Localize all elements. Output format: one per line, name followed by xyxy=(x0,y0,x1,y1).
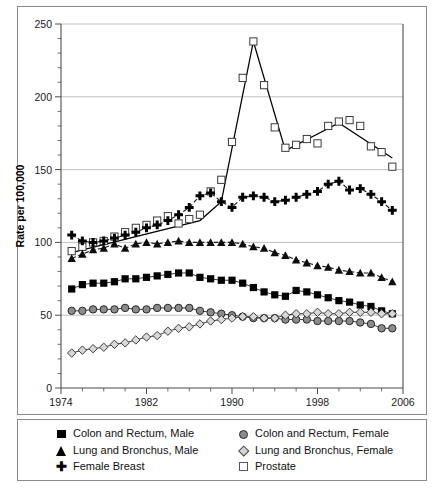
datapoint-lung-and-bronchus-female-1984 xyxy=(164,327,172,335)
datapoint-colon-and-rectum-male-1980 xyxy=(122,275,129,282)
x-tick-label-1990: 1990 xyxy=(220,396,244,408)
datapoint-prostate-1985 xyxy=(175,220,182,227)
legend-item-label: Lung and Bronchus, Female xyxy=(255,444,393,457)
datapoint-prostate-1995 xyxy=(282,144,289,151)
datapoint-colon-and-rectum-male-1993 xyxy=(260,288,267,295)
datapoint-lung-and-bronchus-female-1982 xyxy=(142,333,150,341)
datapoint-lung-and-bronchus-female-2000 xyxy=(335,310,343,318)
datapoint-female-breast-1987 xyxy=(196,191,205,200)
chart-svg: 05010015020025019741982199019982006Year … xyxy=(0,0,441,413)
datapoint-colon-and-rectum-male-1977 xyxy=(89,280,96,287)
legend-item-prostate[interactable]: Prostate xyxy=(237,459,425,475)
plus-icon: ✚ xyxy=(55,460,68,473)
datapoint-colon-and-rectum-female-2003 xyxy=(367,320,374,327)
datapoint-lung-and-bronchus-female-1983 xyxy=(153,331,161,339)
datapoint-lung-and-bronchus-female-1981 xyxy=(132,336,140,344)
legend-item-colon-and-rectum-male[interactable]: Colon and Rectum, Male xyxy=(55,426,221,442)
datapoint-lung-and-bronchus-female-1976 xyxy=(78,346,86,354)
datapoint-colon-and-rectum-male-1985 xyxy=(175,269,182,276)
datapoint-prostate-2000 xyxy=(335,118,342,125)
datapoint-colon-and-rectum-female-1981 xyxy=(132,306,139,313)
datapoint-lung-and-bronchus-female-1985 xyxy=(174,324,182,332)
datapoint-colon-and-rectum-female-1982 xyxy=(143,306,150,313)
datapoint-prostate-1989 xyxy=(218,176,225,183)
x-tick-label-1974: 1974 xyxy=(49,396,73,408)
open-square-icon xyxy=(237,460,250,473)
datapoint-colon-and-rectum-female-1983 xyxy=(153,304,160,311)
series-line-prostate-trend xyxy=(72,41,393,252)
datapoint-colon-and-rectum-female-1998 xyxy=(314,317,321,324)
datapoint-lung-and-bronchus-female-1988 xyxy=(206,317,214,325)
datapoint-female-breast-1999 xyxy=(324,180,333,189)
series-line-lung-and-bronchus-male xyxy=(72,241,393,282)
legend-item-label: Female Breast xyxy=(73,460,145,473)
datapoint-prostate-1991 xyxy=(239,74,246,81)
filled-square-glyph xyxy=(57,430,66,439)
legend: Colon and Rectum, MaleLung and Bronchus,… xyxy=(17,419,425,479)
datapoint-colon-and-rectum-male-1999 xyxy=(325,294,332,301)
datapoint-colon-and-rectum-male-1983 xyxy=(154,272,161,279)
datapoint-prostate-1997 xyxy=(303,135,310,142)
datapoint-lung-and-bronchus-male-1994 xyxy=(271,248,279,256)
legend-item-label: Colon and Rectum, Male xyxy=(73,427,194,440)
open-diamond-icon xyxy=(237,444,250,457)
datapoint-colon-and-rectum-male-1979 xyxy=(111,278,118,285)
filled-circle-icon xyxy=(237,427,250,440)
datapoint-lung-and-bronchus-female-1987 xyxy=(196,320,204,328)
legend-column-left: Colon and Rectum, MaleLung and Bronchus,… xyxy=(17,426,221,479)
datapoint-prostate-1996 xyxy=(293,141,300,148)
datapoint-lung-and-bronchus-male-1985 xyxy=(174,237,182,245)
filled-triangle-glyph xyxy=(56,446,66,456)
datapoint-colon-and-rectum-female-1976 xyxy=(79,307,86,314)
datapoint-colon-and-rectum-male-1987 xyxy=(196,274,203,281)
datapoint-female-breast-1996 xyxy=(292,193,301,202)
datapoint-lung-and-bronchus-male-2005 xyxy=(388,278,396,286)
datapoint-colon-and-rectum-female-1975 xyxy=(68,307,75,314)
datapoint-lung-and-bronchus-female-1975 xyxy=(67,349,75,357)
datapoint-colon-and-rectum-male-1998 xyxy=(314,291,321,298)
legend-item-female-breast[interactable]: ✚Female Breast xyxy=(55,459,221,475)
datapoint-lung-and-bronchus-female-1999 xyxy=(324,310,332,318)
datapoint-colon-and-rectum-female-1978 xyxy=(100,306,107,313)
open-square-glyph xyxy=(239,462,248,471)
y-tick-label-250: 250 xyxy=(34,18,52,30)
datapoint-colon-and-rectum-female-2005 xyxy=(389,325,396,332)
legend-item-lung-and-bronchus-female[interactable]: Lung and Bronchus, Female xyxy=(237,443,425,459)
datapoint-lung-and-bronchus-male-1991 xyxy=(238,240,246,248)
datapoint-lung-and-bronchus-female-1980 xyxy=(121,339,129,347)
datapoint-colon-and-rectum-male-1990 xyxy=(228,277,235,284)
legend-column-right: Colon and Rectum, FemaleLung and Bronchu… xyxy=(221,426,425,479)
datapoint-lung-and-bronchus-female-1979 xyxy=(110,340,118,348)
datapoint-colon-and-rectum-male-1997 xyxy=(303,288,310,295)
datapoint-colon-and-rectum-male-2000 xyxy=(335,297,342,304)
datapoint-female-breast-2004 xyxy=(377,197,386,206)
open-diamond-glyph xyxy=(238,445,249,456)
legend-item-lung-and-bronchus-male[interactable]: Lung and Bronchus, Male xyxy=(55,443,221,459)
datapoint-prostate-2005 xyxy=(389,163,396,170)
series-layer xyxy=(67,38,396,357)
datapoint-prostate-1998 xyxy=(314,140,321,147)
datapoint-prostate-1987 xyxy=(196,211,203,218)
datapoint-lung-and-bronchus-male-1975 xyxy=(67,254,75,262)
x-tick-label-2006: 2006 xyxy=(391,396,415,408)
datapoint-female-breast-2003 xyxy=(367,190,376,199)
y-tick-label-200: 200 xyxy=(34,91,52,103)
datapoint-prostate-1994 xyxy=(271,124,278,131)
datapoint-prostate-1990 xyxy=(228,138,235,145)
datapoint-colon-and-rectum-female-1977 xyxy=(89,306,96,313)
legend-item-colon-and-rectum-female[interactable]: Colon and Rectum, Female xyxy=(237,426,425,442)
y-tick-label-100: 100 xyxy=(34,236,52,248)
y-tick-label-50: 50 xyxy=(40,309,52,321)
datapoint-colon-and-rectum-male-1982 xyxy=(143,274,150,281)
datapoint-lung-and-bronchus-female-1978 xyxy=(100,343,108,351)
datapoint-prostate-1999 xyxy=(325,122,332,129)
datapoint-lung-and-bronchus-male-1993 xyxy=(260,244,268,252)
datapoint-colon-and-rectum-male-1991 xyxy=(239,280,246,287)
datapoint-female-breast-2002 xyxy=(356,184,365,193)
datapoint-female-breast-1995 xyxy=(281,196,290,205)
datapoint-colon-and-rectum-female-2004 xyxy=(378,325,385,332)
y-axis-title: Rate per 100,000 xyxy=(14,164,26,247)
datapoint-colon-and-rectum-male-1988 xyxy=(207,275,214,282)
datapoint-colon-and-rectum-female-2002 xyxy=(357,319,364,326)
datapoint-prostate-2004 xyxy=(378,149,385,156)
